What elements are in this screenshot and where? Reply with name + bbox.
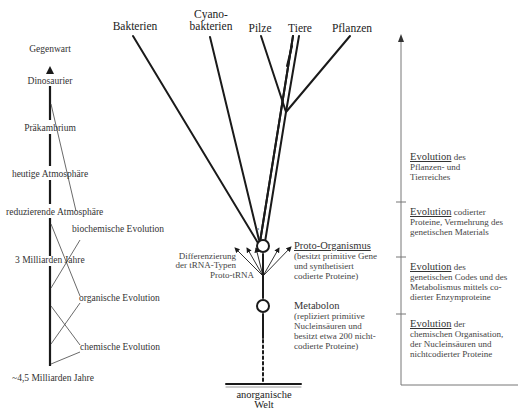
label-4-5-milliarden-jahre: ~4,5 Milliarden Jahre xyxy=(12,373,94,383)
label-reduzierende-atmosphaere: reduzierende Atmosphäre xyxy=(6,207,103,217)
timeline-phase-lines xyxy=(51,104,80,364)
proto-trna-label: Proto-tRNA xyxy=(190,271,254,281)
metabolon-desc: (repliziert primitive Nucleinsäuren und … xyxy=(294,311,376,351)
tip-pilze: Pilze xyxy=(240,22,280,34)
tip-cyanobakterien-line2: bakterien xyxy=(180,20,242,32)
tip-bakterien: Bakterien xyxy=(105,20,165,32)
question-mark: ? xyxy=(256,226,259,236)
proto-organismus-desc: (besitzt primitive Gene und synthetisier… xyxy=(294,251,377,281)
phase-organische-evolution: organische Evolution xyxy=(79,293,160,303)
tip-tiere: Tiere xyxy=(280,22,320,34)
label-dinosaurier: Dinosaurier xyxy=(10,76,90,86)
tip-pflanzen: Pflanzen xyxy=(324,22,380,34)
label-gegenwart: Gegenwart xyxy=(20,44,80,54)
label-praekambrium: Präkambrium xyxy=(10,123,90,133)
stage-genetischer-code: Evolution des genetischen Codes und des … xyxy=(410,262,507,302)
metabolon-title: Metabolon xyxy=(294,300,340,311)
base-welt: Welt xyxy=(224,400,304,410)
stage-chemische-organisation: Evolution der chemischen Organisation, d… xyxy=(410,319,503,359)
label-3-milliarden-jahre: 3 Milliarden Jahre xyxy=(15,255,85,265)
stage-pflanzen-tierreich: Evolution des Pflanzen- und Tierreiches xyxy=(410,152,466,182)
stage-codierte-proteine: Evolution codierter Proteine, Vermehrung… xyxy=(410,207,503,237)
label-heutige-atmosphaere: heutige Atmosphäre xyxy=(0,169,100,179)
tip-cyanobakterien-line1: Cyano- xyxy=(180,8,242,20)
proto-organismus-title: Proto-Organismus xyxy=(294,240,371,251)
phase-chemische-evolution: chemische Evolution xyxy=(80,342,160,352)
phase-biochemische-evolution: biochemische Evolution xyxy=(72,224,164,234)
